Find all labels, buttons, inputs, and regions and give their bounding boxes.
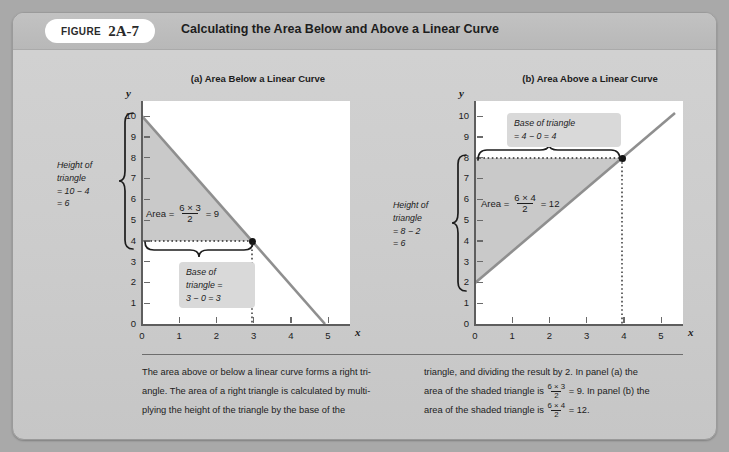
panel-a-base-line-0: Base of <box>186 266 248 279</box>
panel_b-y-tick-label-1: 1 <box>449 297 469 308</box>
panel_a-y-tick-mark-8 <box>144 157 150 158</box>
panel-a-area-result: = 9 <box>206 208 219 219</box>
caption-left-line-1: The area above or below a linear curve f… <box>142 363 404 382</box>
panel_a-x-tick-mark-3 <box>253 317 254 323</box>
panel_a-y-tick-label-0: 0 <box>116 318 136 329</box>
panel-b-area-numerator: 6 × 4 <box>512 193 537 203</box>
panel-a-x-axis <box>141 324 350 326</box>
panel_a-x-tick-mark-4 <box>290 317 291 323</box>
panel_a-y-tick-mark-2 <box>144 282 150 283</box>
panel-a-y-axis-label: y <box>126 87 131 99</box>
caption-right-line-3-pre: area of the shaded triangle is <box>424 405 544 415</box>
panel-b-title: (b) Area Above a Linear Curve <box>465 73 715 84</box>
panel-b-base-callout: Base of triangle = 4 − 0 = 4 <box>507 113 621 147</box>
panel_a-y-tick-mark-6 <box>144 199 150 200</box>
panel_b-y-tick-mark-5 <box>477 220 483 221</box>
panel_b-y-tick-mark-10 <box>477 116 483 117</box>
panel_b-y-tick-label-0: 0 <box>449 318 469 329</box>
caption-right-line-2-post: = 9. In panel (b) the <box>569 386 650 396</box>
panel-a-y-axis <box>141 101 143 325</box>
panel_a-y-tick-mark-9 <box>144 136 150 137</box>
caption-fraction-a: 6 × 3 2 <box>548 383 566 400</box>
caption-fraction-b: 6 × 4 2 <box>548 402 566 419</box>
panel-a-x-axis-label: x <box>355 326 361 338</box>
panel-b-area-denominator: 2 <box>517 203 532 214</box>
panel-a-height-note: Height of triangle = 10 − 4 = 6 <box>57 159 119 210</box>
caption-right-line-3-post: = 12. <box>569 405 590 415</box>
panel_a-x-tick-mark-2 <box>216 317 217 323</box>
panel_a-y-tick-mark-1 <box>144 303 150 304</box>
panel-b-height-note-line-2: = 8 − 2 <box>393 225 455 238</box>
panel_b-y-tick-mark-7 <box>477 178 483 179</box>
panel_b-x-tick-mark-2 <box>549 317 550 323</box>
panel_b-y-tick-mark-9 <box>477 136 483 137</box>
panel_b-y-tick-mark-4 <box>477 240 483 241</box>
panel_a-x-tick-mark-1 <box>179 317 180 323</box>
panel-a-base-brace <box>143 241 255 259</box>
panel_a-x-tick-label-2: 2 <box>208 330 224 341</box>
panel-a-area-denominator: 2 <box>182 213 197 224</box>
panel_b-y-tick-mark-3 <box>477 261 483 262</box>
panel-b-height-note: Height of triangle = 8 − 2 = 6 <box>393 199 455 250</box>
caption-right-column: triangle, and dividing the result by 2. … <box>424 363 686 420</box>
panel_a-x-tick-label-1: 1 <box>171 330 187 341</box>
panel_b-y-tick-label-9: 9 <box>449 131 469 142</box>
panel_b-x-tick-mark-5 <box>661 317 662 323</box>
caption-fraction-a-denominator: 2 <box>551 391 561 400</box>
panel_a-y-tick-label-3: 3 <box>116 256 136 267</box>
panel_b-y-tick-mark-2 <box>477 282 483 283</box>
panel-b-height-brace <box>450 153 470 293</box>
panel-b-height-note-line-3: = 6 <box>393 237 455 250</box>
panel-a-height-note-line-2: = 10 − 4 <box>57 185 119 198</box>
caption-divider <box>142 354 683 355</box>
panel-b-area-formula: Area = 6 × 4 2 = 12 <box>481 193 559 214</box>
caption-fraction-a-numerator: 6 × 3 <box>548 383 566 391</box>
panel_a-x-tick-label-4: 4 <box>283 330 299 341</box>
panel-a-area-formula: Area = 6 × 3 2 = 9 <box>146 203 219 224</box>
panel_a-x-tick-label-3: 3 <box>246 330 262 341</box>
panel_b-x-tick-label-1: 1 <box>504 330 520 341</box>
panel_b-y-tick-mark-1 <box>477 303 483 304</box>
panel-a-height-note-line-0: Height of <box>57 159 119 172</box>
figure-title: Calculating the Area Below and Above a L… <box>181 22 499 36</box>
panel_a-y-tick-label-1: 1 <box>116 297 136 308</box>
panel-a-area-fraction: 6 × 3 2 <box>177 203 202 224</box>
panel_b-x-tick-label-0: 0 <box>467 330 483 341</box>
panel_b-x-tick-label-4: 4 <box>616 330 632 341</box>
caption-left-line-3: plying the height of the triangle by the… <box>142 401 404 420</box>
figure-header: Figure 2A-7 Calculating the Area Below a… <box>13 13 716 50</box>
caption-right-line-2-pre: area of the shaded triangle is <box>424 386 544 396</box>
panel-b-height-note-line-1: triangle <box>393 212 455 225</box>
panel_b-x-tick-mark-4 <box>623 317 624 323</box>
panel_b-x-tick-mark-3 <box>586 317 587 323</box>
caption-fraction-b-numerator: 6 × 4 <box>548 402 566 410</box>
panel_a-y-tick-mark-7 <box>144 178 150 179</box>
caption-left-column: The area above or below a linear curve f… <box>142 363 404 420</box>
panel-a-height-note-line-1: triangle <box>57 172 119 185</box>
caption-right-line-1: triangle, and dividing the result by 2. … <box>424 363 686 382</box>
panel-a-base-line-2: 3 − 0 = 3 <box>186 292 248 305</box>
panel-b-area-result: = 12 <box>541 198 560 209</box>
panel_b-x-tick-mark-1 <box>512 317 513 323</box>
panel-b-base-brace <box>476 146 626 164</box>
panel-a-title: (a) Area Below a Linear Curve <box>133 73 383 84</box>
panel_b-y-tick-label-10: 10 <box>449 110 469 121</box>
figure-label-word: Figure <box>61 26 101 37</box>
panel-a-area-numerator: 6 × 3 <box>177 203 202 213</box>
figure-number-badge: Figure 2A-7 <box>45 19 155 43</box>
panel-b-x-axis-label: x <box>688 326 694 338</box>
panel_b-x-tick-label-2: 2 <box>541 330 557 341</box>
figure-card: Figure 2A-7 Calculating the Area Below a… <box>12 12 717 440</box>
panel-b-base-line-1: = 4 − 0 = 4 <box>514 130 614 143</box>
caption-fraction-b-denominator: 2 <box>551 410 561 419</box>
panel-b-area-fraction: 6 × 4 2 <box>512 193 537 214</box>
panel-a-height-note-line-3: = 6 <box>57 197 119 210</box>
panel_a-x-tick-label-0: 0 <box>134 330 150 341</box>
panel_a-y-tick-label-2: 2 <box>116 276 136 287</box>
panel-b-base-line-0: Base of triangle <box>514 117 614 130</box>
panel-b-y-axis-label: y <box>459 87 464 99</box>
panel_a-x-tick-label-5: 5 <box>320 330 336 341</box>
panel_b-x-tick-label-5: 5 <box>653 330 669 341</box>
panel_a-y-tick-mark-10 <box>144 116 150 117</box>
panel-a-base-callout: Base of triangle = 3 − 0 = 3 <box>179 262 255 308</box>
